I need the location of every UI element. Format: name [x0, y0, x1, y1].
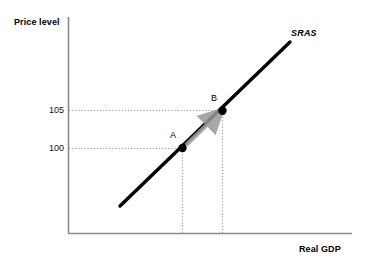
- y-axis-title: Price level: [14, 17, 60, 27]
- point-a-marker: [178, 144, 186, 152]
- sras-curve-label: SRAS: [291, 28, 317, 38]
- y-tick-label-100: 100: [30, 143, 64, 153]
- point-a-label: A: [170, 130, 176, 140]
- x-axis-title: Real GDP: [299, 244, 341, 254]
- chart-canvas: [0, 0, 366, 264]
- point-b-marker: [218, 107, 226, 115]
- chart-background: [0, 0, 366, 264]
- point-b-label: B: [211, 93, 217, 103]
- y-tick-label-105: 105: [30, 105, 64, 115]
- sras-chart: Price level Real GDP 105 100 A B SRAS: [0, 0, 366, 264]
